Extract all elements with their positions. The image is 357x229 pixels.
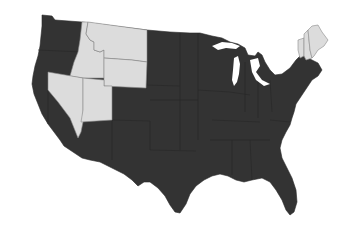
us-map-svg [0,0,357,229]
state-vermont[interactable] [298,38,304,58]
us-map [0,0,357,229]
state-wyoming[interactable] [104,58,147,88]
state-maine[interactable] [308,25,328,58]
